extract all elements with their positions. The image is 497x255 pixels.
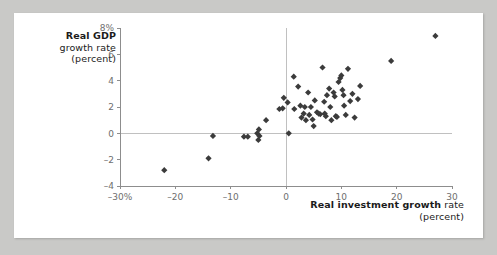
data-point bbox=[291, 74, 297, 80]
x-tick-label: –10 bbox=[223, 192, 239, 202]
page-background: Real GDP growth rate (percent) Real inve… bbox=[0, 0, 497, 255]
data-points bbox=[161, 33, 438, 174]
data-point bbox=[355, 96, 361, 102]
data-point bbox=[349, 91, 355, 97]
data-point bbox=[286, 130, 292, 136]
data-point bbox=[319, 64, 325, 70]
data-point bbox=[341, 103, 347, 109]
data-point bbox=[305, 89, 311, 95]
y-tick-label: –4 bbox=[104, 181, 115, 191]
chart-card: Real GDP growth rate (percent) Real inve… bbox=[14, 13, 483, 238]
data-point bbox=[328, 117, 334, 123]
data-point bbox=[352, 114, 358, 120]
y-axis-ticks: –4–202468% bbox=[100, 23, 120, 191]
data-point bbox=[343, 112, 349, 118]
data-point bbox=[285, 99, 291, 105]
data-point bbox=[308, 104, 314, 110]
data-point bbox=[306, 112, 312, 118]
data-point bbox=[340, 92, 346, 98]
plot-axes: –4–202468% –30%–20–100102030 bbox=[100, 23, 458, 202]
data-point bbox=[161, 167, 167, 173]
data-point bbox=[327, 104, 333, 110]
y-tick-label: 4 bbox=[108, 76, 114, 86]
scatter-plot: –4–202468% –30%–20–100102030 bbox=[14, 13, 483, 238]
data-point bbox=[347, 98, 353, 104]
data-point bbox=[345, 66, 351, 72]
y-tick-label: 6 bbox=[108, 50, 114, 60]
y-tick-label: –2 bbox=[104, 155, 114, 165]
data-point bbox=[311, 123, 317, 129]
data-point bbox=[324, 92, 330, 98]
data-point bbox=[205, 155, 211, 161]
data-point bbox=[432, 33, 438, 39]
x-tick-label: 0 bbox=[283, 192, 289, 202]
data-point bbox=[291, 106, 297, 112]
data-point bbox=[388, 58, 394, 64]
plot-zero-lines bbox=[120, 28, 452, 186]
data-point bbox=[321, 99, 327, 105]
data-point bbox=[312, 97, 318, 103]
x-tick-label: 30 bbox=[446, 192, 458, 202]
data-point bbox=[357, 83, 363, 89]
data-point bbox=[326, 85, 332, 91]
x-tick-label: 20 bbox=[391, 192, 403, 202]
x-tick-label: –20 bbox=[167, 192, 183, 202]
data-point bbox=[263, 117, 269, 123]
data-point bbox=[309, 116, 315, 122]
data-point bbox=[339, 87, 345, 93]
y-tick-label: 0 bbox=[108, 129, 114, 139]
data-point bbox=[297, 103, 303, 109]
data-point bbox=[295, 83, 301, 89]
data-point bbox=[245, 134, 251, 140]
x-tick-label: –30% bbox=[108, 192, 133, 202]
x-tick-label: 10 bbox=[336, 192, 348, 202]
data-point bbox=[302, 104, 308, 110]
y-tick-label: 8% bbox=[100, 23, 115, 33]
y-tick-label: 2 bbox=[108, 102, 114, 112]
x-axis-ticks: –30%–20–100102030 bbox=[108, 186, 458, 202]
